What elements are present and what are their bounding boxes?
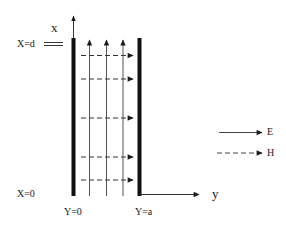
legend-h-label: H (267, 148, 274, 158)
x-bottom-label: X=0 (17, 189, 35, 199)
waveguide-diagram: x X=d X=0 Y=0 Y=a y E H (0, 0, 286, 228)
y-axis-label: y (212, 187, 219, 200)
x-top-label: X=d (17, 39, 35, 49)
x-axis-label: x (51, 21, 58, 34)
y-right-label: Y=a (135, 207, 152, 217)
legend-e-label: E (267, 127, 273, 137)
diagram-canvas (0, 0, 286, 228)
x-d-marker (44, 43, 63, 46)
y-left-label: Y=0 (64, 207, 82, 217)
